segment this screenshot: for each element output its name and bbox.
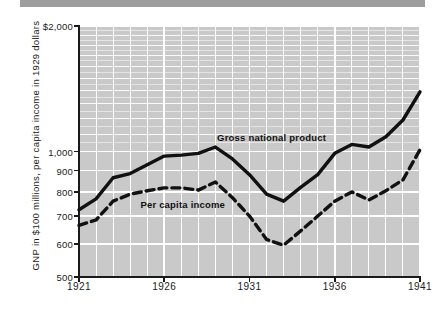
series-label-gross-national-product: Gross national product [217,132,326,143]
chart-canvas [0,0,438,311]
gridlines [79,26,420,277]
series-label-per-capita-income: Per capita income [140,199,225,210]
plot-area-wrapper: GNP in $100 millions, per capita income … [0,0,438,311]
chart-figure: GNP in $100 millions, per capita income … [0,0,438,311]
